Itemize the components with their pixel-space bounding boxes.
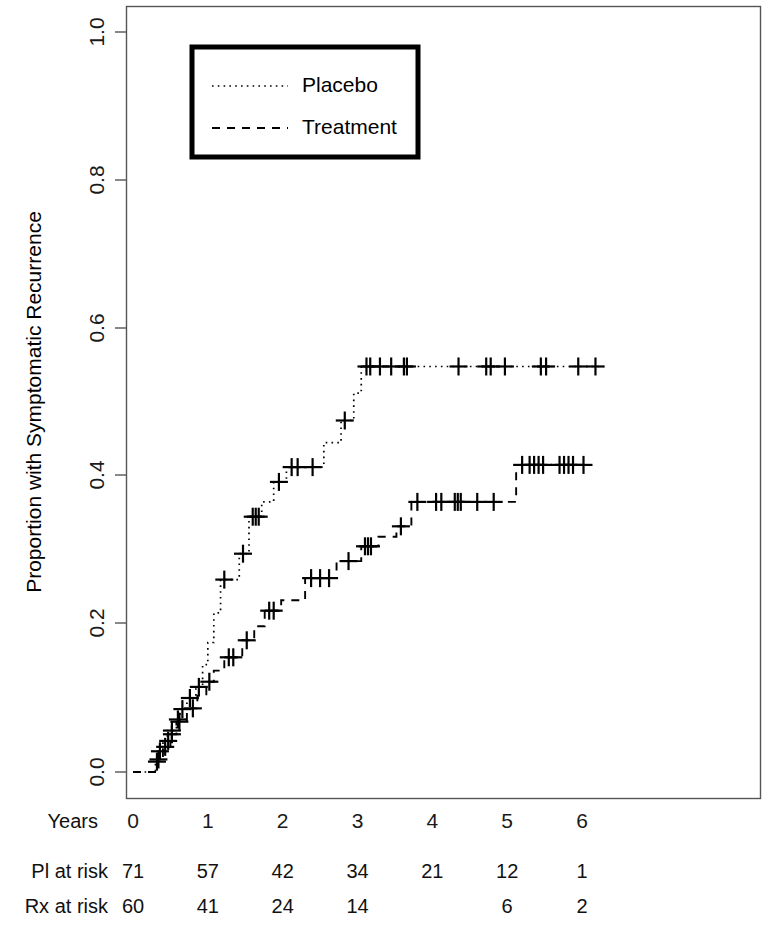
legend: Placebo Treatment (192, 47, 418, 157)
legend-label-treatment: Treatment (302, 115, 397, 138)
y-tick-label: 0.8 (85, 165, 108, 194)
risk-table-cell: 57 (197, 860, 219, 882)
x-tick-label: 2 (277, 809, 289, 832)
y-tick-label: 0.2 (85, 608, 108, 637)
y-tick-label: 0.4 (85, 460, 108, 490)
risk-table-cell: 71 (122, 860, 144, 882)
kaplan-meier-plot: 1.0 0.8 0.6 0.4 0.2 0.0 Proportion with … (0, 0, 771, 926)
risk-table-cell: 6 (502, 895, 513, 917)
km-survival-figure: 1.0 0.8 0.6 0.4 0.2 0.0 Proportion with … (0, 0, 771, 926)
x-tick-label: 4 (426, 809, 438, 832)
risk-table-cell: 2 (576, 895, 587, 917)
y-tick-label: 0.0 (85, 757, 108, 786)
legend-box (192, 47, 418, 157)
legend-label-placebo: Placebo (302, 73, 378, 96)
x-tick-label: 0 (127, 809, 139, 832)
risk-table-cell: 34 (346, 860, 368, 882)
risk-table-cell: 21 (421, 860, 443, 882)
risk-table-cell: 60 (122, 895, 144, 917)
x-tick-label: 1 (202, 809, 214, 832)
risk-table-row-label-treatment: Rx at risk (25, 895, 109, 917)
y-tick-label: 1.0 (85, 17, 108, 46)
risk-table-cell: 42 (272, 860, 294, 882)
y-tick-label: 0.6 (85, 313, 108, 342)
risk-table-cell: 24 (272, 895, 294, 917)
risk-table-row-label-placebo: Pl at risk (31, 860, 109, 882)
x-tick-label: 3 (352, 809, 364, 832)
risk-table-cell: 14 (346, 895, 368, 917)
x-tick-label: 5 (501, 809, 513, 832)
risk-table-years-label: Years (48, 810, 98, 832)
x-tick-label: 6 (576, 809, 588, 832)
risk-table-cell: 1 (576, 860, 587, 882)
risk-table-cell: 12 (496, 860, 518, 882)
y-axis-title: Proportion with Symptomatic Recurrence (22, 211, 45, 593)
risk-table-cell: 41 (197, 895, 219, 917)
